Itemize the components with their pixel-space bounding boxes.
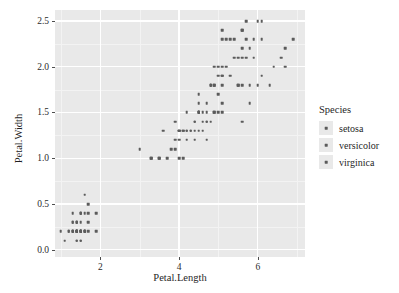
legend-title: Species	[319, 104, 379, 115]
data-point	[71, 221, 74, 224]
data-point	[193, 129, 196, 132]
data-point	[221, 38, 224, 41]
data-point	[166, 157, 169, 160]
data-point	[158, 157, 161, 160]
data-point	[241, 120, 244, 123]
legend-item-setosa[interactable]: setosa	[319, 120, 379, 136]
gridline	[61, 10, 62, 257]
data-point	[205, 120, 208, 123]
data-point	[221, 84, 224, 87]
scatter-plot: 0.00.51.01.52.02.5 246 Petal.Length Peta…	[0, 0, 399, 293]
data-point	[213, 65, 216, 68]
data-point	[170, 148, 173, 151]
gridline	[55, 20, 305, 21]
y-tick-label: 2.5	[15, 16, 49, 26]
data-point	[138, 148, 141, 151]
legend-key-swatch	[319, 155, 333, 169]
data-point	[249, 102, 252, 105]
data-point	[182, 129, 185, 132]
y-tick-mark	[52, 250, 55, 251]
y-axis-title: Petal.Width	[13, 74, 24, 204]
data-point	[174, 139, 177, 142]
data-point	[182, 157, 185, 160]
legend-item-label: versicolor	[339, 140, 379, 151]
data-point	[229, 38, 232, 41]
legend-item-versicolor[interactable]: versicolor	[319, 137, 379, 153]
legend-item-label: virginica	[339, 157, 374, 168]
data-point	[272, 65, 275, 68]
data-point	[209, 84, 212, 87]
data-point	[221, 75, 224, 78]
data-point	[241, 84, 244, 87]
x-tick-label: 2	[98, 262, 103, 272]
gridline	[178, 10, 179, 257]
data-point	[241, 56, 244, 59]
x-axis-title: Petal.Length	[55, 272, 305, 283]
legend-item-virginica[interactable]: virginica	[319, 154, 379, 170]
legend-key-swatch	[319, 121, 333, 135]
data-point	[197, 102, 200, 105]
data-point	[190, 129, 193, 132]
data-point	[268, 84, 271, 87]
data-point	[186, 111, 189, 114]
data-point	[256, 84, 259, 87]
data-point	[237, 84, 240, 87]
data-point	[87, 203, 90, 206]
legend-point-icon	[325, 144, 328, 147]
data-point	[75, 221, 78, 224]
data-point	[260, 20, 263, 23]
gridline	[55, 66, 305, 67]
data-point	[217, 93, 220, 96]
x-tick-mark	[100, 257, 101, 260]
data-point	[260, 75, 263, 78]
data-point	[205, 111, 208, 114]
legend-point-icon	[325, 127, 328, 130]
y-tick-mark	[52, 158, 55, 159]
data-point	[75, 239, 78, 242]
legend-items: setosaversicolorvirginica	[319, 120, 379, 170]
data-point	[174, 148, 177, 151]
data-point	[197, 93, 200, 96]
data-point	[253, 56, 256, 59]
gridline	[140, 10, 141, 257]
data-point	[162, 129, 165, 132]
data-point	[186, 139, 189, 142]
data-point	[229, 75, 232, 78]
gridline	[55, 44, 305, 45]
data-point	[245, 20, 248, 23]
data-point	[245, 56, 248, 59]
data-point	[178, 139, 181, 142]
data-point	[237, 56, 240, 59]
data-point	[87, 230, 90, 233]
data-point	[79, 221, 82, 224]
data-point	[193, 139, 196, 142]
data-point	[221, 111, 224, 114]
data-point	[225, 38, 228, 41]
data-point	[256, 20, 259, 23]
data-point	[201, 120, 204, 123]
gridline	[55, 112, 305, 113]
data-point	[225, 65, 228, 68]
data-point	[79, 239, 82, 242]
data-point	[71, 230, 74, 233]
y-tick-mark	[52, 204, 55, 205]
data-point	[67, 230, 70, 233]
data-point	[221, 29, 224, 32]
gridline	[257, 10, 258, 257]
gridline	[55, 181, 305, 182]
legend: Species setosaversicolorvirginica	[319, 104, 379, 171]
y-tick-label: 0.0	[15, 245, 49, 255]
gridline	[55, 135, 305, 136]
data-point	[75, 230, 78, 233]
data-point	[201, 129, 204, 132]
y-tick-mark	[52, 21, 55, 22]
data-point	[197, 129, 200, 132]
gridline	[55, 227, 305, 228]
data-point	[241, 47, 244, 50]
data-point	[79, 212, 82, 215]
data-point	[87, 221, 90, 224]
data-point	[284, 65, 287, 68]
data-point	[83, 212, 86, 215]
gridline	[297, 10, 298, 257]
data-point	[233, 56, 236, 59]
